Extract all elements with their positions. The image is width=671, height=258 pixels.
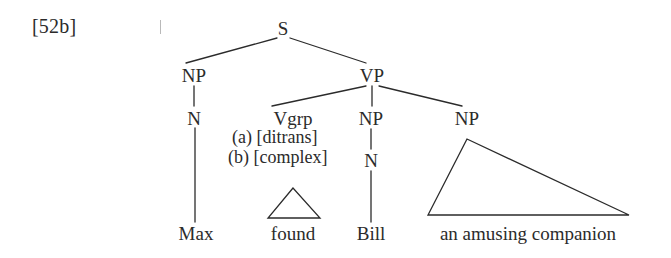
branch-s-np [186, 38, 277, 63]
margin-tick-mark [160, 20, 161, 34]
feature-complex: (b) [complex] [228, 148, 327, 166]
figure-canvas: [52b] S NP VP N Vgrp NP NP N (a) [ditran… [0, 0, 671, 258]
branch-s-vp [290, 38, 366, 63]
node-np-complement: NP [455, 109, 479, 128]
node-s: S [278, 19, 289, 38]
triangle-phrase [428, 139, 629, 215]
example-number: [52b] [32, 16, 76, 36]
branch-vp-vgrp [272, 86, 366, 106]
node-vgrp: Vgrp [273, 109, 312, 128]
terminal-phrase: an amusing companion [440, 224, 616, 243]
terminal-bill: Bill [357, 224, 386, 243]
node-n-object: N [364, 151, 378, 170]
branch-vp-np3 [379, 86, 462, 106]
terminal-found: found [271, 224, 315, 243]
tree-lines [0, 0, 671, 258]
triangle-found [268, 188, 320, 218]
feature-ditrans: (a) [ditrans] [232, 128, 317, 146]
node-np-object: NP [359, 109, 383, 128]
node-np-subject: NP [182, 66, 206, 85]
node-n-subject: N [187, 109, 201, 128]
node-vp: VP [360, 66, 384, 85]
terminal-max: Max [179, 224, 214, 243]
